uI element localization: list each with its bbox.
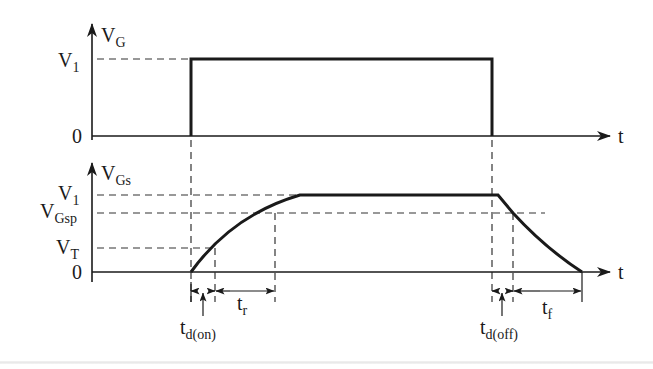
top-level-v1-label: V1 — [58, 49, 79, 75]
bottom-y-axis-label: VGs — [101, 162, 131, 188]
td-on-label: td(on) — [180, 316, 216, 343]
top-level-zero-label: 0 — [72, 125, 82, 147]
page-edge-shadow — [0, 361, 653, 364]
top-x-axis-label: t — [618, 125, 624, 147]
tr-label: tr — [237, 292, 248, 318]
bottom-level-v1-label: V1 — [58, 182, 79, 208]
top-y-axis-label: VG — [101, 24, 126, 50]
gate-source-voltage-curve — [191, 195, 582, 272]
switching-timing-diagram: VG t V1 0 VGs t V1 VGsp VT 0 — [0, 0, 653, 369]
bottom-x-axis-label: t — [618, 261, 624, 283]
gate-voltage-pulse — [191, 59, 492, 136]
bottom-level-vt-label: VT — [56, 236, 79, 262]
td-off-label: td(off) — [480, 316, 518, 343]
tf-label: tf — [542, 296, 553, 322]
bottom-plot: VGs t V1 VGsp VT 0 — [40, 162, 624, 302]
interval-annotations: td(on) tr td(off) tf — [180, 282, 581, 343]
bottom-level-zero-label: 0 — [72, 261, 82, 283]
top-plot: VG t V1 0 — [58, 24, 624, 147]
